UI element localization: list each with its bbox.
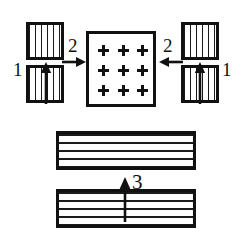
upper-left-block bbox=[26, 22, 64, 60]
callout-2-right: 2 bbox=[163, 36, 173, 55]
technical-diagram: 1 2 2 1 3 bbox=[0, 0, 245, 243]
callout-2-left: 2 bbox=[68, 36, 78, 55]
arrow-right-up-icon bbox=[192, 60, 208, 104]
plus-marker bbox=[118, 45, 129, 56]
upper-bar bbox=[56, 131, 196, 170]
arrow-right-to-center-icon bbox=[157, 55, 183, 69]
plus-marker bbox=[118, 85, 129, 96]
plus-marker bbox=[137, 85, 148, 96]
center-square bbox=[86, 31, 156, 107]
plus-marker bbox=[118, 65, 129, 76]
plus-marker bbox=[137, 65, 148, 76]
arrow-bottom-up-icon bbox=[117, 175, 133, 222]
callout-1-left: 1 bbox=[13, 60, 23, 79]
plus-marker bbox=[98, 45, 109, 56]
arrow-left-up-icon bbox=[38, 60, 54, 104]
upper-right-block bbox=[181, 22, 219, 60]
arrow-left-to-center-icon bbox=[62, 55, 88, 69]
callout-1-right: 1 bbox=[222, 60, 232, 79]
callout-3: 3 bbox=[132, 172, 143, 193]
plus-marker bbox=[98, 65, 109, 76]
plus-marker bbox=[98, 85, 109, 96]
plus-marker bbox=[137, 45, 148, 56]
